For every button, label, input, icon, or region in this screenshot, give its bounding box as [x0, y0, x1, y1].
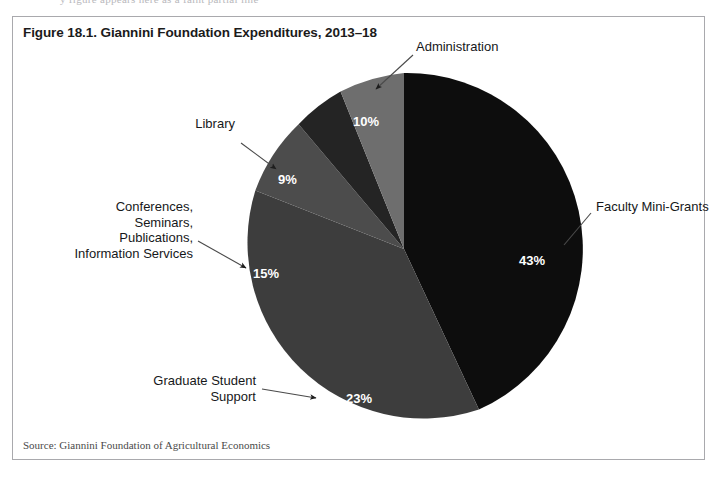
callout-label-conferences: Conferences, Seminars, Publications, Inf…	[25, 199, 193, 261]
leader-line-conferences	[198, 241, 246, 268]
callout-label-library: Library	[123, 116, 235, 132]
slice-value-graduate-student-support: 23%	[346, 391, 372, 406]
slice-value-faculty-mini-grants: 43%	[519, 253, 545, 268]
slice-value-administration: 10%	[353, 114, 379, 129]
callout-label-graduate-student-support: Graduate Student Support	[88, 373, 256, 404]
leader-line-graduate-student-support	[262, 389, 316, 398]
figure-frame: Figure 18.1. Giannini Foundation Expendi…	[12, 16, 705, 460]
figure-source: Source: Giannini Foundation of Agricultu…	[23, 439, 270, 451]
clipped-page-text: y figure appears here as a faint partial…	[0, 0, 718, 7]
pie-chart: 43% 23% 15% 9% 10% Administration Facult…	[13, 17, 704, 459]
callout-label-administration: Administration	[416, 39, 498, 55]
slice-value-conferences: 15%	[253, 266, 279, 281]
slice-value-library: 9%	[278, 172, 297, 187]
leader-line-library	[241, 143, 276, 169]
callout-label-faculty-mini-grants: Faculty Mini-Grants	[596, 199, 709, 215]
